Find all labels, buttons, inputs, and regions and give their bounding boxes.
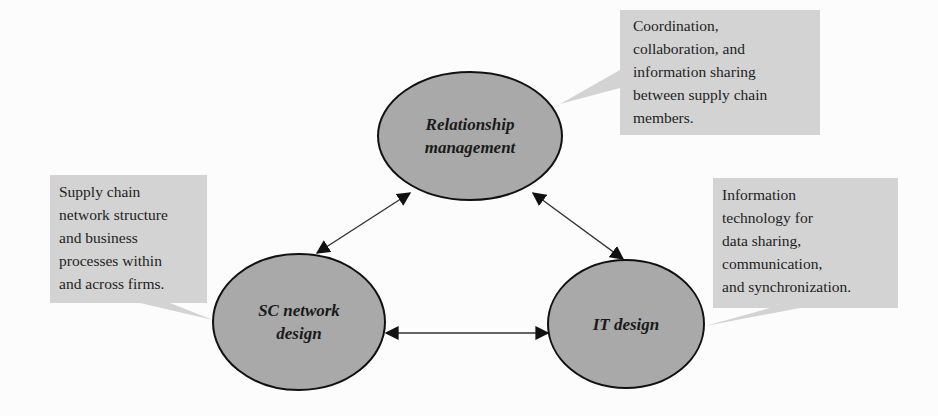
callout-text-it: Information technology for data sharing,… (722, 183, 851, 298)
callout-text-relationship: Coordination, collaboration, and informa… (633, 14, 767, 129)
node-label-network: SC network design (258, 299, 340, 345)
edge-relationship-network (317, 193, 410, 253)
node-label-relationship: Relationship management (425, 113, 516, 159)
callout-text-network: Supply chain network structure and busin… (59, 180, 168, 295)
callout-pointer (560, 70, 620, 104)
callout-pointer (140, 303, 213, 320)
edge-relationship-it (533, 193, 623, 259)
node-label-it: IT design (593, 313, 660, 336)
callout-pointer (705, 308, 800, 326)
